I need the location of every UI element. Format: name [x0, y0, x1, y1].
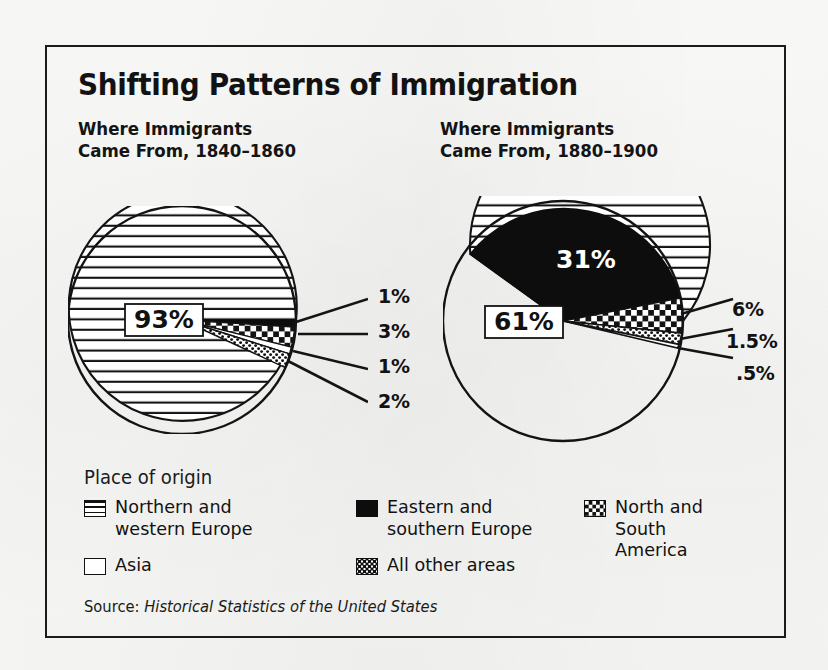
speckled-swatch-icon	[356, 558, 378, 575]
solid-black-swatch-icon	[356, 500, 378, 517]
source-label: Source:	[84, 598, 140, 616]
panel-subtitle-1840-1860: Where Immigrants Came From, 1840–1860	[78, 118, 296, 163]
callout-labels-1880-1900: 6% 1.5% .5%	[732, 298, 822, 398]
white-outline-swatch-icon	[84, 558, 106, 575]
legend-item-northern-western-europe[interactable]: Northern and western Europe	[84, 498, 260, 539]
pie-chart-1880-1900: 31% 61%	[443, 196, 743, 444]
callout-1880-2: 1.5%	[726, 330, 778, 352]
legend-heading: Place of origin	[84, 466, 212, 488]
pie-label-31: 31%	[556, 245, 616, 274]
callout-1880-1: 6%	[732, 298, 764, 320]
pie-svg-1880-1900: 31% 61%	[443, 196, 743, 444]
legend-item-asia[interactable]: Asia	[84, 556, 154, 576]
pie-label-61: 61%	[494, 307, 554, 336]
horizontal-lines-swatch-icon	[84, 500, 106, 517]
legend-label-eastern-southern-europe: Eastern and southern Europe	[387, 496, 532, 539]
pie-label-93-box: 93%	[125, 304, 203, 336]
callout-1880-3: .5%	[736, 362, 775, 384]
legend-item-eastern-southern-europe[interactable]: Eastern and southern Europe	[356, 498, 540, 539]
pie-chart-1840-1860: 93%	[68, 206, 368, 434]
panel-subtitle-1880-1900: Where Immigrants Came From, 1880–1900	[440, 118, 658, 163]
leader-lines-1840	[288, 299, 368, 402]
pie-label-93: 93%	[134, 305, 194, 334]
callout-1840-2: 3%	[378, 320, 410, 342]
source-title: Historical Statistics of the United Stat…	[144, 598, 437, 616]
legend-item-all-other-areas[interactable]: All other areas	[356, 556, 522, 576]
callout-1840-3: 1%	[378, 355, 410, 377]
legend-label-northern-western-europe: Northern and western Europe	[115, 496, 252, 539]
figure-title: Shifting Patterns of Immigration	[78, 67, 578, 102]
checkerboard-swatch-icon	[584, 500, 606, 517]
legend-label-north-south-america: North and South America	[615, 496, 738, 561]
pie-svg-1840-1860: 93%	[68, 206, 368, 434]
callout-1840-4: 2%	[378, 390, 410, 412]
callout-1840-1: 1%	[378, 285, 410, 307]
legend-label-all-other-areas: All other areas	[387, 554, 515, 576]
legend-item-north-south-america[interactable]: North and South America	[584, 498, 744, 561]
legend-label-asia: Asia	[115, 554, 152, 576]
source-note: Source: Historical Statistics of the Uni…	[84, 598, 437, 616]
pie-label-61-box: 61%	[485, 306, 563, 338]
